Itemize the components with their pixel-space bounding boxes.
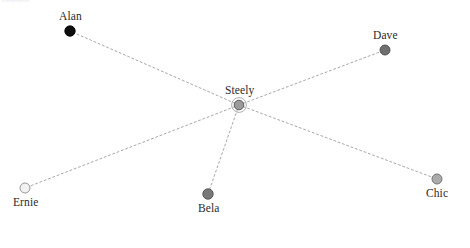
node-label-chic: Chic bbox=[426, 188, 448, 200]
graph-node-dave[interactable] bbox=[380, 45, 390, 55]
graph-node-ernie[interactable] bbox=[20, 183, 30, 193]
graph-edge-steely-bela bbox=[208, 105, 239, 194]
node-label-steely: Steely bbox=[225, 85, 254, 97]
graph-node-steely[interactable] bbox=[234, 100, 244, 110]
node-layer bbox=[20, 26, 442, 199]
graph-edge-steely-alan bbox=[70, 31, 239, 105]
graph-edge-steely-ernie bbox=[25, 105, 239, 188]
network-graph-figure: vbmmb AlanDaveSteelyChicBelaErnie bbox=[0, 0, 470, 248]
graph-node-chic[interactable] bbox=[432, 174, 442, 184]
graph-canvas bbox=[0, 0, 470, 248]
graph-edge-steely-dave bbox=[239, 50, 385, 105]
edge-layer bbox=[25, 31, 437, 194]
node-label-dave: Dave bbox=[373, 30, 398, 42]
graph-node-alan[interactable] bbox=[65, 26, 75, 36]
graph-edge-steely-chic bbox=[239, 105, 437, 179]
graph-node-bela[interactable] bbox=[203, 189, 213, 199]
node-label-bela: Bela bbox=[198, 203, 219, 215]
node-label-ernie: Ernie bbox=[13, 197, 38, 209]
node-label-alan: Alan bbox=[59, 11, 82, 23]
